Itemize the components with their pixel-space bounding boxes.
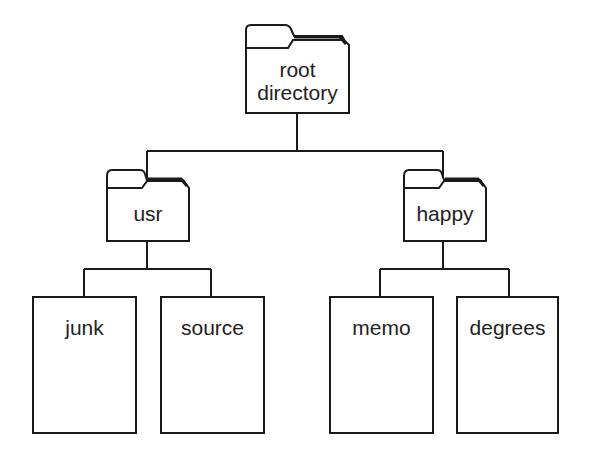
folder-label-happy: happy — [404, 202, 486, 225]
file-label-source: source — [161, 316, 264, 339]
file-label-degrees: degrees — [457, 316, 558, 339]
file-label-junk: junk — [33, 316, 136, 339]
file-label-memo: memo — [330, 316, 433, 339]
root-directory-label: root directory — [246, 58, 349, 104]
root-label-line1: root — [246, 58, 349, 81]
folder-label-usr: usr — [107, 202, 189, 225]
root-label-line2: directory — [246, 81, 349, 104]
